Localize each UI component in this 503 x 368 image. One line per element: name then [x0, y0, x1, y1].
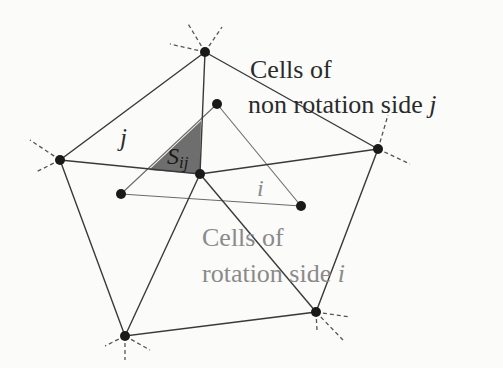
label-cell-i: i [257, 175, 264, 201]
node-right [373, 144, 383, 154]
label-cell-j: j [117, 124, 127, 151]
rotation-caption-line2: rotation side i [202, 259, 345, 288]
rotation-caption-text: rotation side [202, 259, 338, 288]
node-bottom-left [120, 331, 130, 341]
rotation-cell-edges [121, 104, 301, 206]
rotation-caption-var: i [338, 259, 345, 288]
node-top [200, 47, 210, 57]
non-rotation-caption-text: non rotation side [248, 90, 429, 119]
rotation-caption-line1: Cells of [202, 223, 284, 252]
node-inner-left [116, 189, 126, 199]
node-inner-right [296, 201, 306, 211]
node-bottom-right [311, 307, 321, 317]
node-inner-top [212, 99, 222, 109]
node-left [55, 155, 65, 165]
mesh-diagram: j Sij i Cells of non rotation side j Cel… [0, 0, 503, 368]
label-sij-base: S [167, 143, 179, 169]
non-rotation-caption-line2: non rotation side j [248, 90, 437, 119]
node-center [195, 169, 205, 179]
non-rotation-caption-line1: Cells of [250, 55, 332, 84]
dashed-stubs [30, 22, 410, 360]
label-sij-sub: ij [179, 153, 189, 172]
